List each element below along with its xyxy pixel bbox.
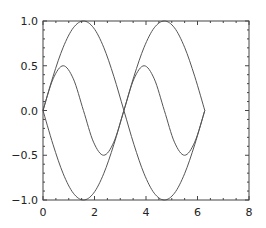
- y-tick-label: −1.0: [11, 194, 38, 207]
- series-layer: [43, 21, 205, 200]
- y-tick-label: 0.0: [21, 105, 39, 118]
- plot-frame: [43, 21, 249, 200]
- x-tick-label: 8: [246, 206, 253, 219]
- x-tick-label: 6: [194, 206, 201, 219]
- y-axis-tick-labels: 1.0 0.5 0.0 −0.5 −1.0: [11, 15, 38, 207]
- y-tick-label: −0.5: [11, 149, 38, 162]
- line-chart: 0 2 4 6 8 1.0 0.5 0.0 −0.5 −1.0: [0, 0, 266, 228]
- ticks-layer: [43, 21, 249, 200]
- x-tick-label: 4: [143, 206, 150, 219]
- series-line-2: [43, 66, 205, 156]
- x-tick-label: 0: [40, 206, 47, 219]
- y-tick-label: 1.0: [21, 15, 39, 28]
- x-axis-tick-labels: 0 2 4 6 8: [40, 206, 253, 219]
- x-tick-label: 2: [91, 206, 98, 219]
- y-tick-label: 0.5: [21, 60, 39, 73]
